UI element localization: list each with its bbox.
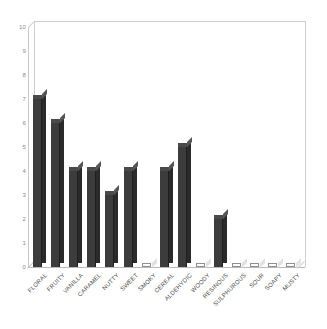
x-axis-label-soapy: SOAPY [264, 272, 284, 292]
x-axis: FLORALFRUITYVANILLACARAMELNUTTYSWEETSMOK… [0, 0, 327, 329]
bar-chart: 109876543210 FLORALFRUITYVANILLACARAMELN… [0, 0, 327, 329]
x-axis-label-musty: MUSTY [282, 272, 302, 292]
x-axis-label-sulphurous: SULPHUROUS [212, 272, 247, 307]
x-axis-label-nutty: NUTTY [102, 272, 121, 291]
x-axis-label-sweet: SWEET [119, 272, 139, 292]
x-axis-label-floral: FLORAL [27, 272, 49, 294]
